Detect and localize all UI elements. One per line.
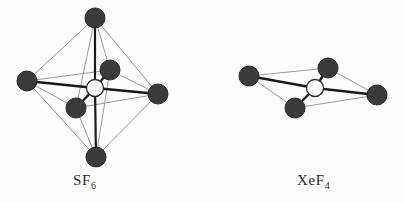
label-xef4-subscript: 4 xyxy=(325,180,330,191)
atom-equatorial-front-dn xyxy=(66,98,86,118)
atom-corner-right xyxy=(367,85,387,105)
label-xef4-main: XeF xyxy=(297,172,325,188)
label-sf6-subscript: 6 xyxy=(91,180,96,191)
atom-corner-top-right xyxy=(318,58,338,78)
edge-left-topright xyxy=(249,68,328,76)
atom-apex-bottom xyxy=(86,147,106,167)
edge-bottom-left xyxy=(27,81,96,157)
molecule-xef4 xyxy=(239,58,387,118)
atom-center-sulfur xyxy=(87,80,104,97)
edge-top-left xyxy=(27,18,95,81)
atom-equatorial-left xyxy=(17,71,37,91)
molecular-geometry-figure: SF6 XeF4 xyxy=(0,0,404,203)
atom-equatorial-front-up xyxy=(100,60,120,80)
label-sf6: SF6 xyxy=(73,172,96,191)
atom-corner-bottom-left xyxy=(285,98,305,118)
atom-center-xenon xyxy=(307,80,324,97)
atom-equatorial-right xyxy=(148,84,168,104)
molecule-diagram-canvas xyxy=(0,0,404,203)
atom-apex-top xyxy=(85,8,105,28)
label-xef4: XeF4 xyxy=(297,172,330,191)
atom-corner-left xyxy=(239,66,259,86)
molecule-sf6 xyxy=(17,8,168,167)
edge-top-right xyxy=(95,18,158,94)
label-sf6-main: SF xyxy=(73,172,91,188)
